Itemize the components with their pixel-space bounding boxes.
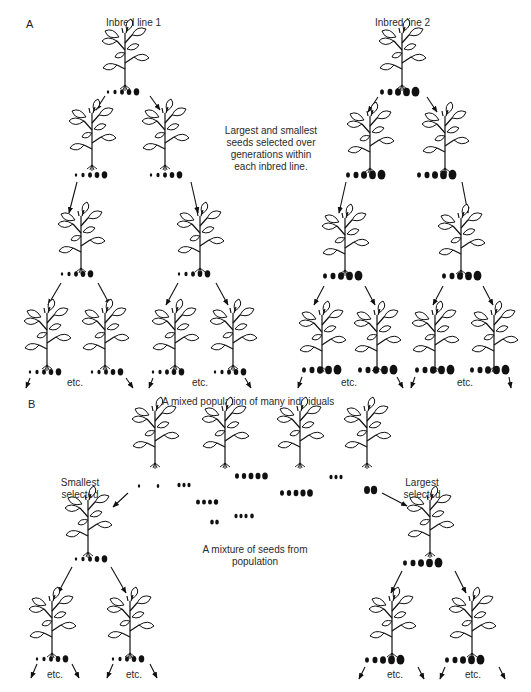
bean-plant-icon xyxy=(152,299,199,371)
arrow-icon xyxy=(509,377,511,388)
line2-tree xyxy=(298,19,518,388)
arrow-icon xyxy=(191,182,198,213)
bean-seed-row-icon xyxy=(75,171,108,178)
bean-seed-row-icon xyxy=(112,655,145,662)
arrow-icon xyxy=(365,286,375,305)
arrow-icon xyxy=(150,96,160,110)
bean-plant-icon xyxy=(412,301,459,373)
bean-seed-row-icon xyxy=(214,368,247,375)
bean-plant-icon xyxy=(58,202,105,274)
arrow-icon xyxy=(58,567,72,593)
bean-seed-row-icon xyxy=(403,558,442,568)
bean-plant-icon xyxy=(369,587,416,659)
arrow-icon xyxy=(483,286,493,305)
arrow-icon xyxy=(150,664,157,678)
arrow-icon xyxy=(216,283,228,305)
arrow-icon xyxy=(314,286,324,305)
smallest-line-tree xyxy=(29,486,157,678)
bean-plant-icon xyxy=(65,486,112,558)
arrow-icon xyxy=(418,667,424,679)
bean-plant-icon xyxy=(29,587,76,659)
arrow-icon xyxy=(149,378,153,388)
bean-plant-icon xyxy=(407,486,454,558)
arrow-icon xyxy=(298,377,302,388)
bean-seed-row-icon xyxy=(150,171,183,178)
bean-plant-icon xyxy=(299,301,346,373)
population-plants xyxy=(132,397,391,469)
arrow-icon xyxy=(397,377,403,388)
bean-seed-row-icon xyxy=(75,555,108,562)
bean-seed-row-icon xyxy=(365,655,404,665)
bean-plant-icon xyxy=(438,204,485,276)
bean-plant-icon xyxy=(322,204,369,276)
bean-plant-icon xyxy=(422,102,469,174)
arrow-icon xyxy=(107,664,113,678)
arrow-icon xyxy=(126,378,133,388)
bean-plant-icon xyxy=(24,299,71,371)
arrow-icon xyxy=(339,182,346,213)
largest-line-tree xyxy=(359,486,505,679)
arrow-icon xyxy=(166,283,178,305)
bean-seed-row-icon xyxy=(178,270,211,277)
bean-plant-icon xyxy=(107,587,154,659)
arrow-icon xyxy=(382,493,407,506)
bean-seed-row-icon xyxy=(358,365,397,375)
bean-plant-icon xyxy=(210,299,257,371)
bean-plant-icon xyxy=(344,397,391,469)
arrow-icon xyxy=(26,378,30,388)
arrow-icon xyxy=(31,664,37,678)
line1-tree xyxy=(24,19,257,388)
arrow-icon xyxy=(427,97,437,112)
bean-plant-icon xyxy=(177,202,224,274)
arrow-icon xyxy=(499,667,505,679)
bean-seed-row-icon xyxy=(470,365,509,375)
bean-plant-icon xyxy=(132,397,179,469)
arrow-icon xyxy=(69,182,77,213)
bean-plant-icon xyxy=(379,19,426,91)
arrow-icon xyxy=(411,377,415,388)
bean-plant-icon xyxy=(82,299,129,371)
arrow-icon xyxy=(111,567,126,593)
bean-plant-icon xyxy=(102,19,149,91)
arrow-icon xyxy=(113,493,128,507)
bean-plant-icon xyxy=(69,99,116,171)
bean-seed-row-icon xyxy=(445,655,484,665)
bean-plant-icon xyxy=(449,587,496,659)
bean-plant-icon xyxy=(202,397,249,469)
arrow-icon xyxy=(455,571,466,593)
bean-plant-icon xyxy=(347,102,394,174)
arrow-icon xyxy=(440,667,445,679)
seed-mixture xyxy=(138,472,377,524)
bean-plant-icon xyxy=(354,301,401,373)
arrow-icon xyxy=(72,664,79,678)
bean-seed-row-icon xyxy=(152,368,185,375)
bean-plant-icon xyxy=(471,301,518,373)
bean-plant-icon xyxy=(277,397,324,469)
diagram-canvas xyxy=(0,0,531,692)
arrow-icon xyxy=(245,378,251,388)
bean-seed-row-icon xyxy=(380,87,419,97)
arrow-icon xyxy=(359,667,365,679)
bean-seed-row-icon xyxy=(417,170,456,180)
bean-plant-icon xyxy=(142,99,189,171)
